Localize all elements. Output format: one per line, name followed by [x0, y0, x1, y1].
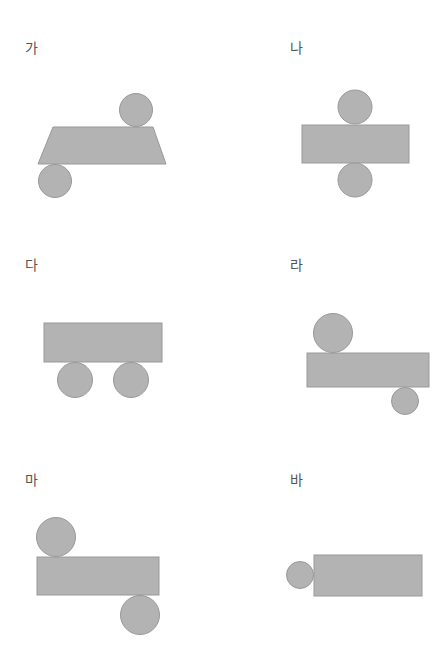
rectangle — [44, 323, 162, 362]
circle-small — [392, 388, 419, 415]
circle-bottom — [39, 165, 72, 198]
rectangle — [302, 125, 409, 163]
figure-da — [44, 323, 162, 398]
circle-right — [114, 363, 149, 398]
nets-diagram — [0, 0, 446, 652]
rectangle — [314, 555, 422, 596]
figure-ma — [37, 518, 160, 635]
circle-large — [314, 314, 353, 353]
circle-top — [120, 94, 153, 127]
circle-top — [37, 518, 76, 557]
figure-ba — [287, 555, 423, 596]
circle-bottom — [338, 163, 372, 197]
figure-ga — [38, 94, 166, 198]
rectangle — [307, 353, 429, 387]
circle-bottom — [121, 596, 160, 635]
figure-ra — [307, 314, 429, 415]
circle-top — [338, 90, 372, 124]
trapezoid — [38, 127, 166, 164]
circle-left — [58, 363, 93, 398]
circle-left — [287, 562, 314, 589]
rectangle — [37, 557, 159, 595]
figure-na — [302, 90, 409, 197]
